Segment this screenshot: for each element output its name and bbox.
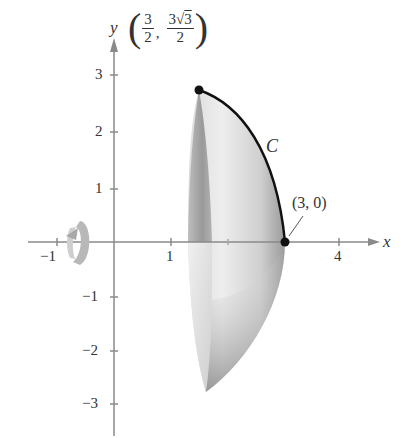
x-tick-label: 4 xyxy=(334,248,342,265)
y-tick-label: 3 xyxy=(95,66,103,83)
y-fraction: 3√3 2 xyxy=(167,12,194,45)
x-tick-label: 1 xyxy=(166,248,174,265)
top-point-label: ( 3 2 , 3√3 2 ) xyxy=(128,8,208,48)
separator: , xyxy=(156,25,160,42)
y-tick-label: −2 xyxy=(82,342,98,359)
top-point xyxy=(195,86,204,95)
y-tick-label: −1 xyxy=(82,288,98,305)
close-paren: ) xyxy=(195,8,208,48)
y-axis-label: y xyxy=(110,18,118,38)
solid-of-revolution-figure xyxy=(0,0,416,438)
end-point-leader xyxy=(289,216,303,236)
curve-label: C xyxy=(266,136,278,157)
rotation-arrow-icon xyxy=(66,221,89,265)
x-fraction: 3 2 xyxy=(142,12,154,45)
open-paren: ( xyxy=(128,8,141,48)
x-axis-label: x xyxy=(383,232,391,252)
x-axis-arrow-icon xyxy=(368,238,380,246)
x-tick-label: −1 xyxy=(40,248,56,265)
end-point-label: (3, 0) xyxy=(292,194,327,212)
y-tick-label: 1 xyxy=(95,180,103,197)
y-tick-label: −3 xyxy=(82,395,98,412)
end-point xyxy=(281,238,290,247)
y-tick-label: 2 xyxy=(95,123,103,140)
y-axis-arrow-icon xyxy=(110,38,118,52)
